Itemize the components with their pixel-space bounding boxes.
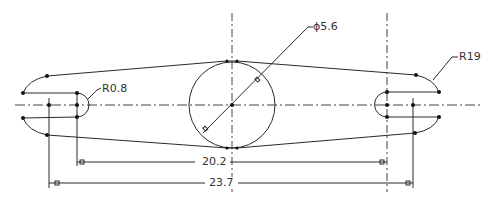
inner-distance-label[interactable]: 20.2 <box>199 156 230 167</box>
right-bottom-end-arc[interactable] <box>415 117 439 133</box>
left-slot-bottom-edge[interactable] <box>23 117 77 118</box>
arrow-marker <box>203 126 208 131</box>
right-end-radius-label[interactable]: R19 <box>459 51 481 62</box>
left-bottom-end-arc[interactable] <box>23 118 47 135</box>
outer-bottom-edge[interactable] <box>47 133 415 148</box>
sketch-canvas <box>0 0 495 211</box>
r0-8-leader <box>88 88 101 99</box>
diameter-label[interactable]: ϕ5.6 <box>313 21 338 32</box>
left-top-end-arc[interactable] <box>23 76 47 93</box>
r19-leader <box>433 57 458 80</box>
diameter-leader <box>203 27 313 133</box>
left-slot-radius-label[interactable]: R0.8 <box>102 83 127 94</box>
arrow-marker <box>255 77 260 82</box>
outer-distance-label[interactable]: 23.7 <box>206 177 237 188</box>
